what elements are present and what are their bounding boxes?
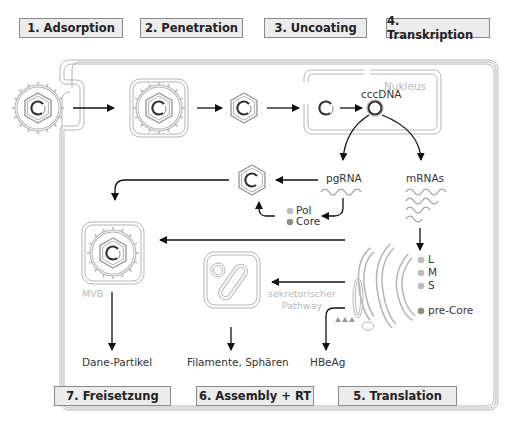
secretory-pathway-label-1: sekretorischer	[268, 288, 336, 299]
step-adsorption: 1. Adsorption	[19, 18, 123, 38]
core-label: Core	[296, 215, 320, 227]
pgrna-label: pgRNA	[326, 172, 362, 184]
step-assembly-rt: 6. Assembly + RT	[196, 386, 314, 406]
mrna-waves	[406, 189, 446, 222]
step-penetration: 2. Penetration	[140, 18, 243, 38]
virion-extracellular	[12, 82, 64, 134]
s-protein-label: S	[428, 279, 435, 291]
mvb-label: MVB	[82, 288, 103, 299]
hbeag-label: HBeAg	[310, 356, 345, 368]
precore-label: pre-Core	[428, 304, 473, 316]
filaments-spheres-label: Filamente, Sphären	[187, 356, 289, 368]
cccdna-label: cccDNA	[361, 88, 401, 100]
hbeag-particles	[335, 317, 355, 322]
step-transkription: 4. Transkription	[386, 18, 490, 38]
m-protein-label: M	[428, 266, 437, 278]
capsid-pgrna	[239, 165, 265, 195]
mrnas-label: mRNAs	[406, 172, 444, 184]
step-freisetzung: 7. Freisetzung	[54, 386, 171, 406]
secretory-vesicle	[204, 252, 260, 308]
secretory-pathway-label-2: Pathway	[282, 300, 322, 311]
dane-particle-label: Dane-Partikel	[82, 356, 152, 368]
step-uncoating: 3. Uncoating	[264, 18, 367, 38]
er-golgi	[353, 246, 414, 330]
rcdna-nucleus	[319, 101, 333, 115]
pgrna-wave	[321, 189, 361, 195]
virion-mvb	[87, 227, 139, 279]
capsid-cytoplasm	[231, 93, 257, 123]
step-translation: 5. Translation	[338, 386, 457, 406]
l-protein-label: L	[428, 253, 434, 265]
cccdna-circle	[367, 100, 383, 116]
virion-endosome	[133, 82, 185, 134]
